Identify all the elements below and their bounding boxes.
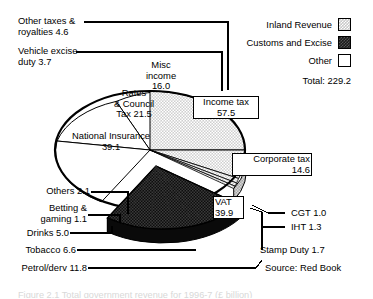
label-other-taxes-royalties: Other taxes & royalties 4.6 [18,16,75,37]
label-iht: IHT 1.3 [291,222,322,233]
legend-swatch-other [338,54,351,67]
leader-drinks [70,226,112,233]
label-tobacco: Tobacco 6.6 [0,245,76,256]
leader-cgt [252,205,285,213]
label-betting-gaming: Betting & gaming 1.1 [0,203,87,224]
label-income-tax: Income tax 57.5 [193,96,259,119]
label-cgt: CGT 1.0 [291,208,326,219]
label-others: Others 2.1 [0,186,90,197]
legend-label-other: Other [192,56,332,67]
label-stamp-duty: Stamp Duty 1.7 [260,245,325,256]
legend-swatch-inland-revenue [338,18,351,31]
label-petrol-derv: Petrol/derv 11.8 [0,263,87,274]
legend-total: Total: 229.2 [212,76,351,87]
label-vat: VAT 39.9 [213,196,244,219]
legend-label-customs-and-excise: Customs and Excise [192,38,332,49]
legend-label-inland-revenue: Inland Revenue [192,20,332,31]
label-vehicle-excise-duty: Vehicle excise duty 3.7 [18,46,77,67]
leader-petrol-derv [88,260,262,268]
label-rates-council-tax: Rates & Council Tax 21.5 [96,88,172,120]
label-corporate-tax: Corporate tax 14.6 [232,153,312,176]
legend-swatch-customs-and-excise [338,36,351,49]
label-national-insurance: National Insurance 39.1 [55,131,167,152]
figure-caption: Figure 2.1 Total government revenue for … [18,290,358,298]
pie-chart-figure: Inland Revenue Customs and Excise Other … [0,0,373,299]
label-drinks: Drinks 5.0 [0,228,69,239]
source-note: Source: Red Book [265,263,341,274]
leader-iht [250,208,285,227]
